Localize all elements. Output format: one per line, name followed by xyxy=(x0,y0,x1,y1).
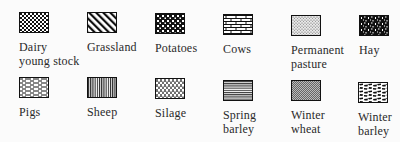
legend-label: Potatoes xyxy=(155,41,221,55)
dashed-horizontal-pattern-icon xyxy=(19,77,49,98)
legend-label: Pigs xyxy=(19,105,85,119)
fine-checker-pattern-icon xyxy=(19,12,49,33)
legend-item-spring-barley: Spring barley xyxy=(223,80,289,136)
legend-item-pigs: Pigs xyxy=(19,77,85,119)
legend-item-winter-wheat: Winter wheat xyxy=(291,80,357,136)
brick-pattern-icon xyxy=(223,14,253,35)
legend-item-sheep: Sheep xyxy=(87,77,153,119)
legend-label: Winter wheat xyxy=(291,108,357,136)
fine-crosshatch-pattern-icon xyxy=(291,80,321,101)
legend-item-permanent-pasture: Permanent pasture xyxy=(291,15,357,71)
legend-label: Spring barley xyxy=(223,108,289,136)
legend-item-hay: Hay xyxy=(359,15,400,57)
horizontal-lines-pattern-icon xyxy=(223,80,253,101)
vertical-lines-pattern-icon xyxy=(87,77,117,98)
legend-label: Silage xyxy=(155,106,221,120)
stipple-pattern-icon xyxy=(291,15,321,36)
legend-label: Hay xyxy=(359,43,400,57)
diagonal-hatch-pattern-icon xyxy=(87,12,117,33)
legend-item-winter-barley: Winter barley xyxy=(358,82,400,138)
legend-label: Winter barley xyxy=(358,110,400,138)
legend-item-grassland: Grassland xyxy=(87,12,153,54)
legend-item-cows: Cows xyxy=(223,14,289,56)
legend-item-dairy-young-stock: Dairy young stock xyxy=(19,12,85,68)
black-speckle-pattern-icon xyxy=(359,15,389,36)
blotch-pattern-icon xyxy=(358,82,388,103)
legend-label: Permanent pasture xyxy=(291,43,357,71)
legend-item-silage: Silage xyxy=(155,78,221,120)
legend-label: Sheep xyxy=(87,105,153,119)
legend-label: Cows xyxy=(223,42,289,56)
vertical-dashes-pattern-icon xyxy=(155,78,185,99)
legend-label: Grassland xyxy=(87,40,153,54)
legend-item-potatoes: Potatoes xyxy=(155,13,221,55)
coarse-checker-pattern-icon xyxy=(155,13,185,34)
legend-label: Dairy young stock xyxy=(19,40,85,68)
